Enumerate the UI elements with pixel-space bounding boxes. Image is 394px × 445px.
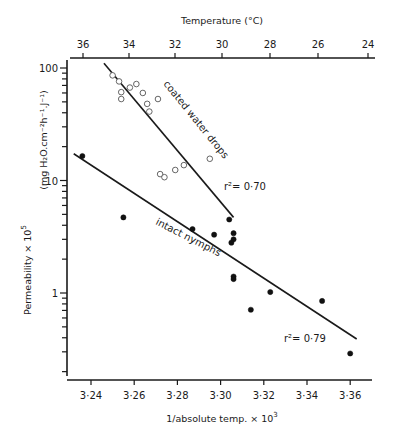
intact-series-label: intact nymphs: [154, 216, 223, 258]
bottom-axis-title: 1/absolute temp. × 103: [166, 411, 278, 424]
fit-lines: [74, 63, 357, 339]
top-axis-title: Temperature (°C): [180, 15, 263, 26]
intact-point: [348, 351, 353, 356]
y-axis-title: Permeability × 105: [20, 225, 33, 315]
x-tick-label: 3·28: [166, 390, 188, 401]
tick-labels: 3·243·263·283·303·323·343·36363432302826…: [39, 39, 374, 401]
intact-point: [231, 276, 236, 281]
top-tick-label: 32: [169, 39, 182, 50]
coated-point: [118, 96, 124, 102]
x-tick-label: 3·24: [80, 390, 102, 401]
top-tick-label: 28: [264, 39, 277, 50]
intact-point: [248, 307, 253, 312]
top-tick-label: 24: [362, 39, 375, 50]
top-tick-label: 30: [216, 39, 229, 50]
y-tick-label: 100: [39, 63, 58, 74]
intact-point: [320, 298, 325, 303]
x-tick-label: 3·34: [296, 390, 318, 401]
top-tick-label: 34: [123, 39, 136, 50]
intact-point: [190, 226, 195, 231]
x-tick-label: 3·30: [209, 390, 231, 401]
data-points: [80, 73, 353, 357]
x-tick-label: 3·36: [339, 390, 361, 401]
intact-point: [80, 153, 85, 158]
coated-point: [127, 85, 133, 91]
coated-point: [110, 73, 116, 79]
coated-point: [162, 174, 168, 180]
coated-point: [181, 162, 187, 168]
coated-point: [155, 96, 161, 102]
top-tick-label: 26: [312, 39, 325, 50]
coated-point: [207, 156, 213, 162]
r2-intact-label: r²= 0·79: [284, 333, 326, 344]
axes: [67, 58, 375, 380]
intact-point: [231, 231, 236, 236]
intact-point: [268, 289, 273, 294]
x-tick-label: 3·32: [253, 390, 275, 401]
coated-point: [116, 79, 122, 85]
coated-point: [134, 81, 140, 87]
r2-coated-label: r²= 0·70: [224, 181, 266, 192]
intact-point: [229, 240, 234, 245]
y-axis-units: (mg H₂O.cm⁻²h⁻¹.J⁻¹): [38, 90, 49, 190]
intact-point: [212, 232, 217, 237]
permeability-chart: 3·243·263·283·303·323·343·36363432302826…: [0, 0, 394, 445]
top-tick-label: 36: [77, 39, 90, 50]
coated-point: [172, 167, 178, 173]
coated-point: [140, 90, 146, 96]
coated-point: [118, 89, 124, 95]
coated-point: [144, 101, 150, 107]
x-tick-label: 3·26: [123, 390, 145, 401]
coated-point: [147, 109, 153, 115]
coated-series-label: coated water drops: [161, 78, 231, 160]
intact-point: [121, 215, 126, 220]
intact-point: [227, 217, 232, 222]
y-tick-label: 1: [52, 288, 58, 299]
